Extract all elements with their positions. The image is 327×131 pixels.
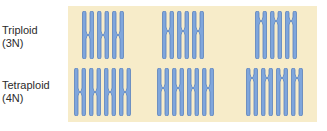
chromosome-icon [119,68,131,118]
label-tetraploid-ploidy: (4N) [2,92,50,105]
chromosome-icon [276,68,288,118]
chromosome-icon [192,11,204,61]
chromosome-icon [255,11,267,61]
chromosome-icon [162,11,174,61]
chromosome-icon [112,11,124,61]
chromosome-icon [157,68,169,118]
chromosome-icon [246,68,258,118]
group-acrocentric [246,68,303,118]
group-submetacentric [157,68,214,118]
chromosome-icon [97,11,109,61]
chromosome-icon [202,68,214,118]
chromosome-icon [285,11,297,61]
row-triploid [68,11,317,61]
chromosome-icon [74,68,86,118]
group-metacentric [74,68,131,118]
chromosome-icon [82,11,94,61]
chromosome-icon [177,11,189,61]
chromosome-icon [187,68,199,118]
row-tetraploid [68,68,317,118]
karyotype-panel [68,6,317,122]
label-tetraploid: Tetraploid (4N) [2,79,50,105]
chromosome-icon [291,68,303,118]
group-metacentric [82,11,124,61]
group-acrocentric [255,11,297,61]
label-triploid-name: Triploid [2,24,38,37]
chromosome-icon [270,11,282,61]
label-triploid-ploidy: (3N) [2,37,38,50]
label-triploid: Triploid (3N) [2,24,38,50]
chromosome-icon [261,68,273,118]
chromosome-icon [89,68,101,118]
chromosome-icon [172,68,184,118]
chromosome-icon [104,68,116,118]
group-submetacentric [162,11,204,61]
label-tetraploid-name: Tetraploid [2,79,50,92]
